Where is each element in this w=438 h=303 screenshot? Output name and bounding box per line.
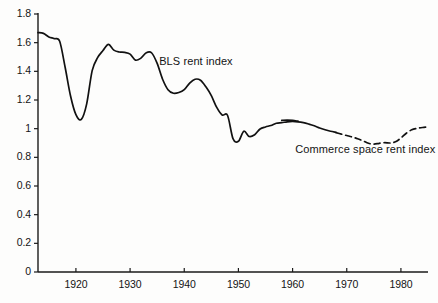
y-axis-tick-label: 1.6 — [17, 36, 31, 48]
x-axis-tick-label: 1970 — [322, 278, 372, 290]
y-axis-tick-label: 0.2 — [17, 236, 31, 248]
x-axis-tick-label: 1980 — [376, 278, 426, 290]
chart-series — [38, 33, 428, 145]
series-line-2 — [336, 127, 428, 144]
y-axis-tick-label: 1.8 — [17, 7, 31, 19]
series-label-commerce-space-rent-index: Commerce space rent index — [295, 143, 435, 155]
x-axis-tick-label: 1950 — [213, 278, 263, 290]
series-label-bls-rent-index: BLS rent index — [159, 55, 233, 67]
x-axis-tick-label: 1960 — [268, 278, 318, 290]
y-axis-tick-label: 0 — [25, 265, 31, 277]
y-axis-tick-label: 1 — [25, 122, 31, 134]
y-axis-tick-label: 0.8 — [17, 150, 31, 162]
y-axis-tick-label: 1.2 — [17, 93, 31, 105]
chart-figure: 1.81.61.41.210.80.60.40.20 1920193019401… — [0, 0, 438, 303]
y-axis-tick-label: 0.4 — [17, 208, 31, 220]
series-line-0 — [38, 33, 336, 142]
x-axis-tick-label: 1940 — [159, 278, 209, 290]
y-axis-tick-label: 1.4 — [17, 64, 31, 76]
x-axis-tick-label: 1920 — [51, 278, 101, 290]
y-axis-tick-label: 0.6 — [17, 179, 31, 191]
x-axis-tick-label: 1930 — [105, 278, 155, 290]
